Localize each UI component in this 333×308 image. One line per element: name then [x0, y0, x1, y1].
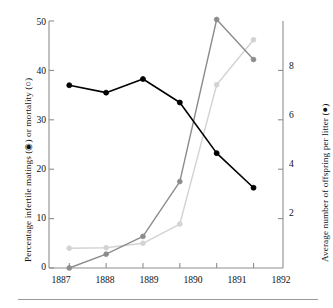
left-axis-ticks	[49, 21, 54, 268]
series-offspring-per-litter	[67, 77, 256, 191]
series-mortality	[67, 37, 256, 250]
series-infertile-matings	[67, 17, 256, 270]
bottom-axis-ticks	[69, 263, 253, 268]
footer-divider	[18, 299, 318, 300]
plot-area	[0, 0, 333, 308]
figure: Percentage infertile matings (◉) or mort…	[0, 0, 333, 308]
right-axis-ticks	[278, 70, 283, 218]
